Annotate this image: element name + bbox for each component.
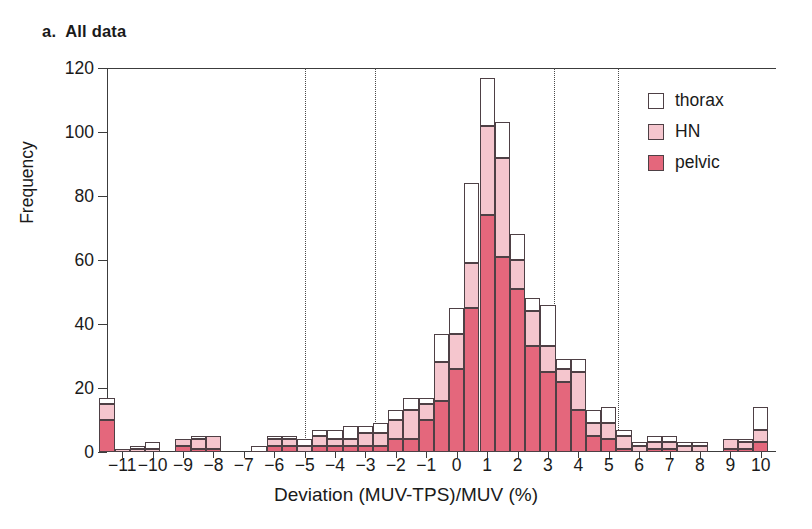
y-tick-label: 80: [75, 186, 94, 207]
y-tick: [98, 388, 107, 389]
histogram-bar: [145, 442, 160, 452]
bar-segment-hn: [480, 126, 495, 216]
x-tick-label: 8: [695, 455, 705, 476]
bar-segment-thorax: [753, 407, 768, 429]
legend-swatch-icon: [648, 124, 664, 140]
bar-segment-pelvic: [571, 410, 586, 452]
bar-segment-pelvic: [312, 446, 327, 452]
bar-segment-thorax: [99, 398, 114, 404]
bar-segment-thorax: [464, 183, 479, 263]
histogram-bar: [571, 359, 586, 452]
histogram-bar: [191, 436, 206, 452]
histogram-bar: [677, 442, 692, 452]
legend-swatch-icon: [648, 155, 664, 171]
bar-segment-hn: [312, 436, 327, 446]
y-tick-label: 20: [75, 378, 94, 399]
bar-segment-hn: [601, 423, 616, 439]
bar-segment-hn: [723, 439, 738, 449]
bar-segment-thorax: [556, 359, 571, 369]
bar-segment-hn: [647, 442, 662, 448]
bar-segment-thorax: [343, 426, 358, 439]
bar-segment-pelvic: [480, 215, 495, 452]
histogram-bar: [434, 334, 449, 452]
bar-segment-thorax: [130, 446, 145, 449]
bar-segment-hn: [510, 260, 525, 289]
histogram-bar: [206, 436, 221, 452]
bar-segment-hn: [130, 449, 145, 452]
histogram-bar: [753, 407, 768, 452]
bar-segment-thorax: [692, 442, 707, 445]
bar-segment-thorax: [571, 359, 586, 372]
histogram-bar: [282, 436, 297, 452]
x-tick-label: −4: [325, 455, 345, 476]
histogram-bar: [647, 436, 662, 452]
legend-item-hn[interactable]: HN: [648, 118, 724, 145]
y-tick-label: 100: [65, 122, 94, 143]
bar-segment-thorax: [510, 234, 525, 260]
bar-segment-hn: [571, 372, 586, 410]
x-tick-label: −2: [386, 455, 406, 476]
x-tick-label: 7: [665, 455, 675, 476]
histogram-bar: [251, 446, 266, 452]
legend-label: HN: [675, 121, 700, 142]
histogram-bar: [403, 398, 418, 452]
x-tick-label: −1: [416, 455, 436, 476]
bar-segment-hn: [327, 439, 342, 445]
bar-segment-hn: [343, 439, 358, 445]
bar-segment-thorax: [601, 407, 616, 423]
histogram-bar: [130, 446, 145, 452]
bar-segment-pelvic: [647, 449, 662, 452]
x-tick-label: −9: [173, 455, 193, 476]
bar-segment-thorax: [312, 430, 327, 436]
x-tick-label: −8: [203, 455, 223, 476]
bar-segment-pelvic: [434, 401, 449, 452]
bar-segment-hn: [419, 404, 434, 420]
y-tick: [98, 324, 107, 325]
histogram-bar: [540, 305, 555, 452]
bar-segment-pelvic: [373, 446, 388, 452]
histogram-bar: [312, 430, 327, 452]
bar-segment-pelvic: [540, 372, 555, 452]
histogram-bar: [297, 439, 312, 452]
bar-segment-pelvic: [495, 257, 510, 452]
histogram-bar: [464, 183, 479, 452]
histogram-bar: [723, 439, 738, 452]
legend-swatch-icon: [648, 93, 664, 109]
bar-segment-pelvic: [191, 449, 206, 452]
bar-segment-thorax: [191, 436, 206, 439]
legend: thoraxHNpelvic: [648, 87, 724, 180]
bar-segment-pelvic: [403, 439, 418, 452]
x-tick-label: 4: [573, 455, 583, 476]
bar-segment-thorax: [145, 442, 160, 448]
bar-segment-hn: [586, 423, 601, 436]
bar-segment-hn: [449, 334, 464, 369]
panel-label: a.: [42, 22, 56, 40]
x-tick-label: −5: [295, 455, 315, 476]
bar-segment-thorax: [540, 305, 555, 347]
bar-segment-hn: [556, 369, 571, 382]
bar-segment-hn: [191, 439, 206, 449]
histogram-bar: [480, 78, 495, 452]
bar-segment-pelvic: [99, 420, 114, 452]
panel-title: a.All data: [42, 22, 126, 41]
x-tick-label: 6: [634, 455, 644, 476]
bar-segment-hn: [358, 433, 373, 446]
legend-item-pelvic[interactable]: pelvic: [648, 149, 724, 176]
histogram-bar: [327, 430, 342, 452]
bar-segment-hn: [267, 439, 282, 445]
x-tick-label: −10: [138, 455, 168, 476]
histogram-bar: [662, 436, 677, 452]
y-tick-label: 60: [75, 250, 94, 271]
y-tick-label: 40: [75, 314, 94, 335]
y-tick: [98, 260, 107, 261]
bar-segment-pelvic: [510, 289, 525, 452]
y-axis-title: Frequency: [17, 93, 38, 273]
histogram-bar: [495, 122, 510, 452]
bar-segment-thorax: [586, 410, 601, 423]
bar-segment-hn: [175, 439, 190, 445]
x-tick-label: 3: [543, 455, 553, 476]
legend-item-thorax[interactable]: thorax: [648, 87, 724, 114]
x-axis-title: Deviation (MUV-TPS)/MUV (%): [0, 484, 812, 506]
legend-label: thorax: [675, 90, 724, 111]
histogram-bar: [175, 439, 190, 452]
